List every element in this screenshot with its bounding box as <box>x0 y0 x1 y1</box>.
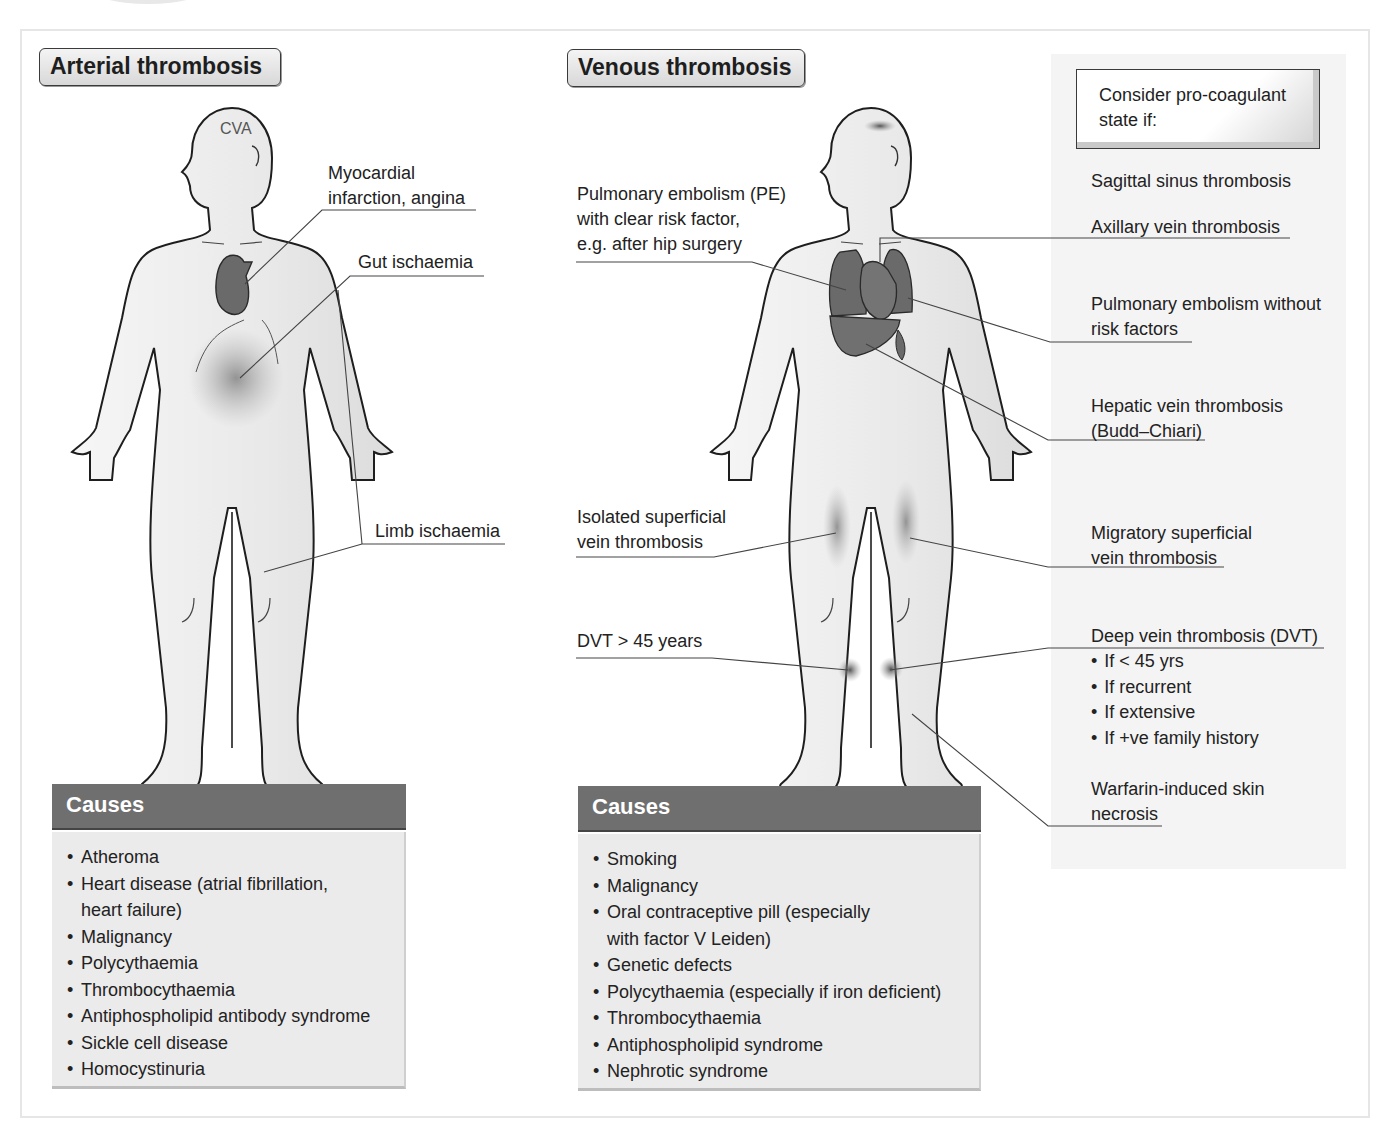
cause-item: Thrombocythaemia <box>593 1005 979 1032</box>
dvt-criterion: If recurrent <box>1091 675 1259 701</box>
pe-no-risk-label-line1: Pulmonary embolism without <box>1091 292 1321 317</box>
cause-item: Polycythaemia (especially if iron defici… <box>593 979 979 1006</box>
pe-risk-label-line3: e.g. after hip surgery <box>577 232 742 257</box>
venous-causes-header: Causes <box>578 786 981 830</box>
pe-risk-label-line2: with clear risk factor, <box>577 207 740 232</box>
migratory-svt-label-line1: Migratory superficial <box>1091 521 1252 546</box>
cause-item: Nephrotic syndrome <box>593 1058 979 1085</box>
arterial-causes-list: Atheroma Heart disease (atrial fibrillat… <box>52 832 404 1083</box>
cause-item: Thrombocythaemia <box>67 977 404 1004</box>
warfarin-label-line1: Warfarin-induced skin <box>1091 777 1264 802</box>
dvt-criterion: If extensive <box>1091 700 1259 726</box>
dvt-criterion: If +ve family history <box>1091 726 1259 752</box>
mi-label-line1: Myocardial <box>328 161 415 186</box>
cva-label: CVA <box>220 116 252 141</box>
consider-procoagulant-box: Consider pro-coagulant state if: <box>1076 69 1320 149</box>
migratory-svt-label-line2: vein thrombosis <box>1091 546 1217 571</box>
limb-ischaemia-label: Limb ischaemia <box>375 519 500 544</box>
consider-line1: Consider pro-coagulant <box>1099 83 1297 108</box>
isolated-svt-label-line1: Isolated superficial <box>577 505 726 530</box>
cause-item: Malignancy <box>593 873 979 900</box>
warfarin-label-line2: necrosis <box>1091 802 1158 827</box>
cause-item: Malignancy <box>67 924 404 951</box>
venous-causes-panel: Smoking Malignancy Oral contraceptive pi… <box>578 834 981 1091</box>
pe-risk-label-line1: Pulmonary embolism (PE) <box>577 182 786 207</box>
arterial-causes-header: Causes <box>52 784 406 828</box>
decorative-blob <box>88 0 208 4</box>
cause-item: Sickle cell disease <box>67 1030 404 1057</box>
gut-ischaemia-label: Gut ischaemia <box>358 250 473 275</box>
arterial-causes-panel: Atheroma Heart disease (atrial fibrillat… <box>52 832 406 1089</box>
dvt-label: Deep vein thrombosis (DVT) <box>1091 624 1318 649</box>
cause-item: Genetic defects <box>593 952 979 979</box>
hepatic-vein-label-line2: (Budd–Chiari) <box>1091 419 1202 444</box>
dvt-criteria-list: If < 45 yrs If recurrent If extensive If… <box>1091 649 1259 751</box>
mi-label-line2: infarction, angina <box>328 186 465 211</box>
cause-item: Heart disease (atrial fibrillation, hear… <box>67 871 341 924</box>
venous-title: Venous thrombosis <box>567 49 805 87</box>
cause-item: Oral contraceptive pill (especially with… <box>593 899 897 952</box>
cause-item: Antiphospholipid syndrome <box>593 1032 979 1059</box>
hepatic-vein-label-line1: Hepatic vein thrombosis <box>1091 394 1283 419</box>
cause-item: Smoking <box>593 846 979 873</box>
isolated-svt-label-line2: vein thrombosis <box>577 530 703 555</box>
cause-item: Antiphospholipid antibody syndrome <box>67 1003 404 1030</box>
sagittal-sinus-label: Sagittal sinus thrombosis <box>1091 169 1291 194</box>
dvt-over45-label: DVT > 45 years <box>577 629 702 654</box>
consider-line2: state if: <box>1099 108 1297 133</box>
cause-item: Polycythaemia <box>67 950 404 977</box>
cause-item: Atheroma <box>67 844 404 871</box>
arterial-title: Arterial thrombosis <box>39 48 281 86</box>
cause-item: Homocystinuria <box>67 1056 404 1083</box>
pe-no-risk-label-line2: risk factors <box>1091 317 1178 342</box>
dvt-criterion: If < 45 yrs <box>1091 649 1259 675</box>
venous-causes-list: Smoking Malignancy Oral contraceptive pi… <box>578 834 979 1085</box>
axillary-vein-label: Axillary vein thrombosis <box>1091 215 1280 240</box>
